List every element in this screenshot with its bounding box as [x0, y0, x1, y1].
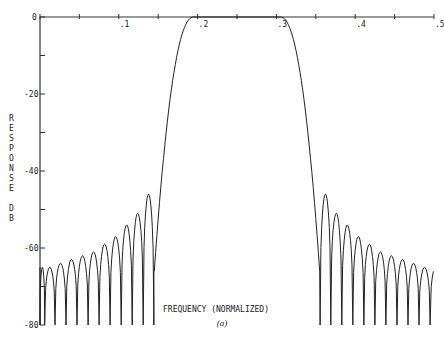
- figure-caption: (a): [217, 318, 228, 328]
- y-axis-label-char: E: [9, 124, 14, 133]
- y-axis-label-char: N: [9, 164, 14, 173]
- y-axis-label-char: S: [9, 174, 14, 183]
- x-tick-label: .5: [435, 20, 444, 29]
- x-tick-label: .4: [356, 20, 366, 29]
- y-tick-label: -80: [24, 321, 39, 330]
- axis-labels: .1.2.3.4.50-20-40-60-80RESPONSEDBFREQUEN…: [9, 13, 444, 330]
- y-axis-label-char: O: [9, 154, 14, 163]
- axes: [40, 14, 434, 325]
- filter-response-chart: .1.2.3.4.50-20-40-60-80RESPONSEDBFREQUEN…: [0, 0, 444, 344]
- x-tick-label: .1: [120, 20, 130, 29]
- y-tick-label: -20: [24, 90, 39, 99]
- x-tick-label: .2: [199, 20, 209, 29]
- y-tick-label: -40: [24, 167, 39, 176]
- response-curve: [40, 17, 433, 325]
- x-axis-label: FREQUENCY (NORMALIZED): [163, 305, 269, 314]
- y-axis-label-char: D: [9, 204, 14, 213]
- x-origin-label: 0: [32, 13, 37, 22]
- y-axis-label-char: P: [9, 144, 14, 153]
- x-tick-label: .3: [277, 20, 287, 29]
- y-tick-label: -60: [24, 244, 39, 253]
- y-axis-label-char: B: [9, 214, 14, 223]
- response-line: [40, 17, 433, 325]
- y-axis-label-char: R: [9, 114, 14, 123]
- y-axis-label-char: S: [9, 134, 14, 143]
- y-axis-label-char: E: [9, 184, 14, 193]
